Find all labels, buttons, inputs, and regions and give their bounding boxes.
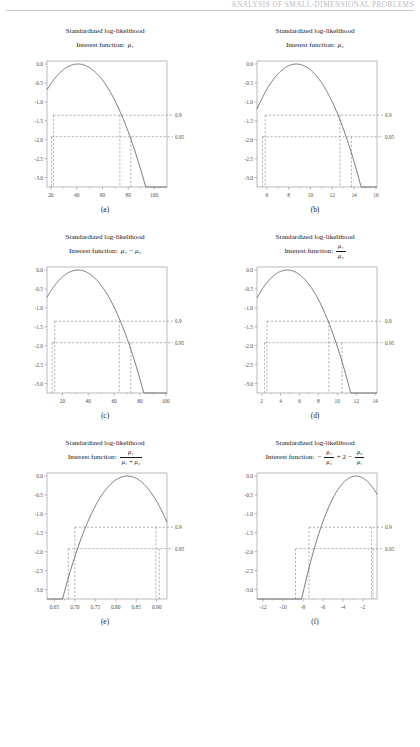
svg-text:0.80: 0.80 (111, 604, 121, 610)
svg-text:-8: -8 (301, 604, 306, 610)
svg-text:0.95: 0.95 (175, 134, 184, 140)
svg-text:-2.0: -2.0 (34, 343, 43, 349)
svg-text:-3.0: -3.0 (244, 175, 253, 181)
interest-function-prefix: Interest function: (69, 246, 118, 257)
plot-area: 68101214160.0-0.5-1.0-1.5-2.0-2.5-3.00.9… (231, 55, 399, 203)
plot-title: Standardized log-likelihood (0, 438, 210, 448)
figure-row: Standardized log-likelihoodInterest func… (0, 438, 420, 626)
svg-text:-0.5: -0.5 (244, 492, 253, 498)
fraction-numerator: μ₁ (324, 449, 333, 455)
svg-text:-2.0: -2.0 (34, 549, 43, 555)
svg-text:16: 16 (373, 192, 379, 198)
figure-panel-c: Standardized log-likelihoodInterest func… (0, 232, 210, 420)
panel-caption: (f) (210, 617, 420, 626)
svg-text:0.75: 0.75 (91, 604, 101, 610)
panel-caption: (c) (0, 411, 210, 420)
svg-text:0.0: 0.0 (36, 61, 43, 67)
fraction-denominator: μ₂ (324, 459, 333, 465)
svg-text:0.95: 0.95 (175, 546, 184, 552)
svg-text:-2.0: -2.0 (244, 137, 253, 143)
svg-text:14: 14 (372, 398, 378, 404)
plot-title: Standardized log-likelihood (210, 26, 420, 36)
svg-text:60: 60 (100, 192, 106, 198)
svg-text:6: 6 (298, 398, 301, 404)
figure-panel-f: Standardized log-likelihoodInterest func… (210, 438, 420, 626)
svg-text:40: 40 (74, 192, 80, 198)
svg-text:-0.5: -0.5 (244, 286, 253, 292)
svg-text:2: 2 (260, 398, 263, 404)
svg-text:-12: -12 (259, 604, 266, 610)
interest-function-prefix: Interest function: (76, 40, 125, 51)
svg-text:80: 80 (126, 192, 132, 198)
likelihood-plot-b: 68101214160.0-0.5-1.0-1.5-2.0-2.5-3.00.9… (231, 55, 399, 203)
svg-text:-1.5: -1.5 (34, 324, 43, 330)
svg-text:0.95: 0.95 (385, 340, 394, 346)
svg-text:-1.0: -1.0 (244, 511, 253, 517)
svg-text:-1.0: -1.0 (34, 99, 43, 105)
svg-text:10: 10 (335, 398, 341, 404)
svg-text:-2.0: -2.0 (244, 549, 253, 555)
figure-panel-d: Standardized log-likelihoodInterest func… (210, 232, 420, 420)
svg-text:-1.0: -1.0 (34, 305, 43, 311)
interest-fraction: μ₁μ₁ + μ₂ (120, 449, 142, 465)
svg-text:0.9: 0.9 (175, 318, 182, 324)
interest-function-line: Interest function:μ₁ − μ₂ (0, 243, 210, 259)
interest-fraction: μ₁μ₂ (324, 449, 333, 465)
svg-text:100: 100 (150, 192, 158, 198)
row-spacer (0, 420, 420, 438)
fraction-denominator: μ₂ (336, 253, 345, 259)
svg-text:80: 80 (137, 398, 143, 404)
fraction-denominator: μ₁ + μ₂ (120, 459, 142, 465)
interest-function-expression: μ₁ − μ₂ (121, 246, 141, 257)
fraction-numerator: μ₁ (126, 449, 135, 455)
svg-text:-1.5: -1.5 (244, 324, 253, 330)
svg-text:14: 14 (351, 192, 357, 198)
figure-row: Standardized log-likelihoodInterest func… (0, 26, 420, 214)
likelihood-plot-f: -12-10-8-6-4-20.0-0.5-1.0-1.5-2.0-2.5-3.… (231, 467, 399, 615)
figure-panel-e: Standardized log-likelihoodInterest func… (0, 438, 210, 626)
figure-row: Standardized log-likelihoodInterest func… (0, 232, 420, 420)
plot-area: 204060801000.0-0.5-1.0-1.5-2.0-2.5-3.00.… (21, 55, 189, 203)
svg-text:-2.0: -2.0 (34, 137, 43, 143)
svg-text:-1.0: -1.0 (34, 511, 43, 517)
svg-text:40: 40 (86, 398, 92, 404)
svg-text:-3.0: -3.0 (244, 381, 253, 387)
svg-text:-6: -6 (321, 604, 326, 610)
interest-fraction: μ₂μ₁ (355, 449, 364, 465)
svg-text:0.95: 0.95 (175, 340, 184, 346)
likelihood-plot-a: 204060801000.0-0.5-1.0-1.5-2.0-2.5-3.00.… (21, 55, 189, 203)
plot-area: 0.650.700.750.800.850.900.0-0.5-1.0-1.5-… (21, 467, 189, 615)
svg-text:0.9: 0.9 (175, 112, 182, 118)
figure-page: ANALYSIS OF SMALL-DIMENSIONAL PROBLEMS S… (0, 0, 420, 747)
svg-text:60: 60 (111, 398, 117, 404)
figure-panel-a: Standardized log-likelihoodInterest func… (0, 26, 210, 214)
interest-fraction: μ₁μ₂ (336, 243, 345, 259)
svg-text:-0.5: -0.5 (34, 80, 43, 86)
svg-text:-3.0: -3.0 (244, 587, 253, 593)
svg-text:0.9: 0.9 (385, 524, 392, 530)
svg-text:0.0: 0.0 (36, 473, 43, 479)
svg-text:0.9: 0.9 (385, 318, 392, 324)
svg-text:20: 20 (48, 192, 54, 198)
likelihood-plot-c: 204060801000.0-0.5-1.0-1.5-2.0-2.5-3.00.… (21, 261, 189, 409)
svg-text:0.9: 0.9 (385, 112, 392, 118)
svg-text:-2.5: -2.5 (34, 156, 43, 162)
svg-text:-1.0: -1.0 (244, 305, 253, 311)
svg-text:-1.5: -1.5 (244, 118, 253, 124)
figure-grid: Standardized log-likelihoodInterest func… (0, 26, 420, 626)
plot-title: Standardized log-likelihood (210, 232, 420, 242)
svg-text:-1.0: -1.0 (244, 99, 253, 105)
svg-text:-2: -2 (361, 604, 366, 610)
svg-text:-1.5: -1.5 (34, 530, 43, 536)
svg-text:12: 12 (354, 398, 360, 404)
svg-text:-0.5: -0.5 (244, 80, 253, 86)
svg-text:0.0: 0.0 (36, 267, 43, 273)
plot-title: Standardized log-likelihood (210, 438, 420, 448)
svg-text:0.95: 0.95 (385, 546, 394, 552)
svg-text:4: 4 (279, 398, 282, 404)
svg-text:6: 6 (265, 192, 268, 198)
svg-text:8: 8 (287, 192, 290, 198)
interest-function-prefix: Interest function: (68, 452, 117, 463)
svg-text:-10: -10 (279, 604, 286, 610)
fraction-numerator: μ₂ (355, 449, 364, 455)
